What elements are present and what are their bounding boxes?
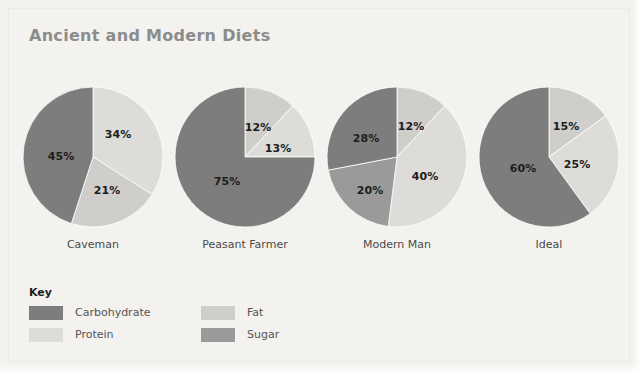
pie-chart-ideal: 15%25%60%Ideal (474, 86, 624, 261)
slice-value-label: 28% (353, 132, 379, 145)
pie-chart-caption: Caveman (18, 238, 168, 251)
pie-svg (174, 86, 316, 228)
paper-edge-bottom (0, 364, 644, 376)
pie-svg (22, 86, 164, 228)
legend-swatch-sugar (201, 328, 235, 342)
slice-value-label: 34% (105, 128, 131, 141)
slice-value-label: 25% (564, 158, 590, 171)
pie-graphic: 12%13%75% (174, 86, 316, 228)
slice-value-label: 13% (265, 142, 291, 155)
legend-swatch-carbohydrate (29, 306, 63, 320)
slice-value-label: 20% (357, 184, 383, 197)
legend-label: Protein (75, 328, 114, 342)
legend-title: Key (29, 286, 52, 299)
pie-graphic: 34%21%45% (22, 86, 164, 228)
paper-edge-right (632, 0, 644, 376)
slice-value-label: 15% (553, 120, 579, 133)
pie-chart-modern-man: 12%40%20%28%Modern Man (322, 86, 472, 261)
chart-legend: Key CarbohydrateProteinFatSugar (29, 286, 329, 348)
legend-label: Sugar (247, 328, 279, 342)
legend-label: Fat (247, 306, 263, 320)
slice-value-label: 40% (412, 170, 438, 183)
pie-graphic: 12%40%20%28% (326, 86, 468, 228)
slice-value-label: 12% (245, 121, 271, 134)
legend-label: Carbohydrate (75, 306, 150, 320)
pie-graphic: 15%25%60% (478, 86, 620, 228)
slice-value-label: 75% (214, 175, 240, 188)
pie-svg (478, 86, 620, 228)
pie-chart-caption: Modern Man (322, 238, 472, 251)
pie-slice-carbohydrate (327, 87, 397, 170)
legend-swatch-protein (29, 328, 63, 342)
pie-chart-caption: Peasant Farmer (170, 238, 320, 251)
slice-value-label: 60% (510, 162, 536, 175)
pie-svg (326, 86, 468, 228)
slice-value-label: 21% (94, 184, 120, 197)
legend-swatch-fat (201, 306, 235, 320)
slice-value-label: 45% (48, 150, 74, 163)
pie-chart-peasant-farmer: 12%13%75%Peasant Farmer (170, 86, 320, 261)
pie-chart-caveman: 34%21%45%Caveman (18, 86, 168, 261)
page-title: Ancient and Modern Diets (29, 26, 270, 45)
slice-value-label: 12% (398, 120, 424, 133)
pie-chart-caption: Ideal (474, 238, 624, 251)
chart-figure: Ancient and Modern Diets 34%21%45%Cavema… (0, 0, 644, 376)
